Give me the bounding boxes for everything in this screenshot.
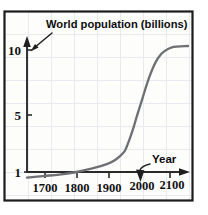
x-tick-label-1900: 1900 <box>97 181 122 195</box>
year-axis-label: Year <box>152 153 177 165</box>
x-tick-label-2100: 2100 <box>160 178 185 192</box>
x-tick-label-1800: 1800 <box>65 181 90 195</box>
x-tick-label-1700: 1700 <box>33 181 58 195</box>
x-tick-label-2000: 2000 <box>130 179 155 193</box>
population-chart-svg: 10 5 1 1700 1800 1900 2000 2100 World po… <box>0 0 208 215</box>
y-tick-label-10: 10 <box>8 43 21 58</box>
chart-title: World population (billions) <box>46 18 188 30</box>
y-tick-label-5: 5 <box>15 108 22 123</box>
y-tick-label-1: 1 <box>15 165 22 180</box>
chart-figure: 10 5 1 1700 1800 1900 2000 2100 World po… <box>0 0 208 215</box>
